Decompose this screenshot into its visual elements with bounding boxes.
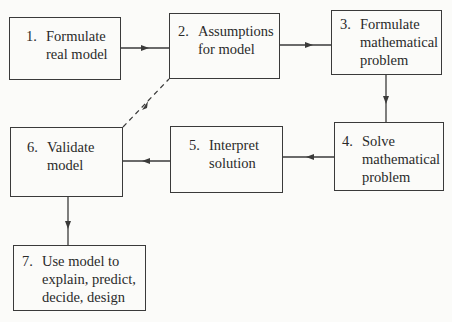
arrowhead-icon — [65, 221, 71, 229]
edge-6-to-7 — [65, 197, 71, 245]
edge-5-to-6 — [123, 158, 170, 164]
edge-1-to-2 — [121, 45, 169, 51]
arrowhead-icon — [383, 96, 389, 104]
arrowhead-icon — [142, 158, 150, 164]
step-label-4: 4.Solve mathematical problem — [342, 132, 440, 186]
edge-3-to-4 — [383, 75, 389, 122]
step-label-2: 2.Assumptions for model — [178, 22, 274, 58]
step-label-1: 1.Formulate real model — [26, 27, 108, 63]
step-label-3: 3.Formulate mathematical problem — [340, 15, 438, 69]
edge-4-to-5 — [283, 154, 334, 160]
step-label-6: 6.Validate model — [27, 138, 95, 174]
arrowhead-icon — [141, 45, 149, 51]
arrowhead-icon — [306, 154, 314, 160]
step-label-5: 5.Interpret solution — [189, 136, 259, 172]
edge-2-to-3 — [280, 42, 331, 48]
arrowhead-icon — [305, 42, 313, 48]
step-label-7: 7.Use model to explain, predict, decide,… — [22, 252, 136, 306]
edge-6-to-2-dashed — [123, 79, 169, 127]
